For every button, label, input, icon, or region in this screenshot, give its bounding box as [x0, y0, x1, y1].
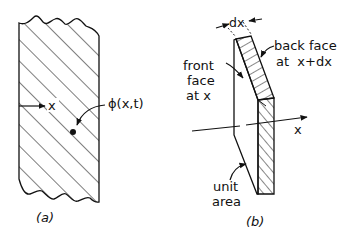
field-label: ϕ(x,t)	[108, 96, 144, 111]
axis-label-x-b: x	[294, 122, 302, 137]
caption-a: (a)	[36, 210, 54, 225]
panel-b: dx x front face at x back face at x+dx u…	[183, 15, 337, 229]
area-pointer	[230, 164, 246, 180]
back-face-label-line1: back face	[274, 38, 337, 53]
area-label-line2: area	[212, 194, 241, 209]
front-face-label-line2: face	[187, 73, 215, 88]
front-face-label-line1: front	[183, 58, 214, 73]
panel-a: x ϕ(x,t) (a)	[19, 16, 166, 225]
back-face-label-line2: at x+dx	[276, 54, 332, 69]
figure-canvas: x ϕ(x,t) (a) dx x front face at x back f…	[0, 0, 358, 237]
back-face-pointer	[261, 46, 274, 57]
dx-arrow-left	[216, 24, 229, 28]
x-axis-b-left	[192, 126, 240, 131]
side-edge-band	[258, 98, 274, 194]
front-face-label-line3: at x	[186, 88, 211, 103]
dx-arrow-right	[249, 19, 262, 21]
caption-b: (b)	[246, 214, 264, 229]
area-label-line1: unit	[213, 179, 238, 194]
field-point	[70, 129, 76, 135]
axis-label-x: x	[48, 98, 56, 113]
dx-label: dx	[229, 15, 244, 30]
